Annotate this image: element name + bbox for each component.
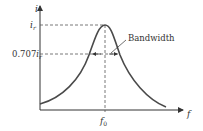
- peak-current-label: ir: [30, 20, 37, 31]
- half-power-coef: 0.707: [12, 49, 36, 59]
- half-power-label: 0.707ir: [12, 49, 43, 60]
- y-axis-label: i: [35, 4, 38, 14]
- resonant-freq-sub: 0: [103, 120, 107, 127]
- x-axis-label: f: [186, 109, 192, 119]
- bandwidth-label: Bandwidth: [128, 33, 175, 43]
- peak-current-sub: r: [33, 24, 37, 31]
- resonant-freq-label: f0: [99, 116, 107, 127]
- resonance-diagram: i f ir 0.707ir f0 Bandwidth: [0, 0, 203, 131]
